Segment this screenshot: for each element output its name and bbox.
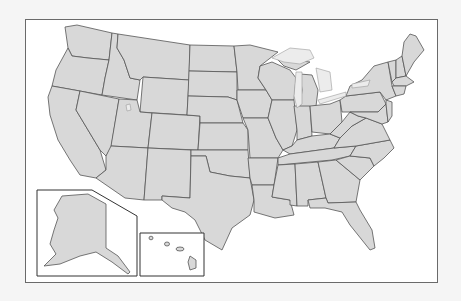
alaska-inset: [37, 190, 137, 276]
island-oahu[interactable]: [165, 242, 170, 246]
state-arkansas[interactable]: [248, 158, 278, 185]
state-iowa[interactable]: [237, 90, 272, 118]
state-washington[interactable]: [65, 25, 112, 60]
hawaii-inset: [140, 233, 204, 276]
state-indiana[interactable]: [294, 106, 312, 140]
state-north-dakota[interactable]: [189, 45, 237, 72]
state-florida[interactable]: [308, 198, 375, 250]
lake-huron: [316, 68, 332, 92]
state-kansas[interactable]: [198, 123, 248, 150]
state-south-dakota[interactable]: [188, 71, 237, 100]
island-kauai[interactable]: [149, 236, 153, 240]
state-wyoming[interactable]: [140, 77, 189, 115]
us-map: [0, 0, 461, 301]
great-salt-lake: [126, 104, 131, 111]
state-montana[interactable]: [117, 34, 190, 80]
state-new-mexico[interactable]: [144, 148, 191, 200]
state-maine[interactable]: [402, 34, 424, 76]
state-colorado[interactable]: [148, 113, 200, 150]
island-molokai-maui[interactable]: [176, 247, 184, 251]
